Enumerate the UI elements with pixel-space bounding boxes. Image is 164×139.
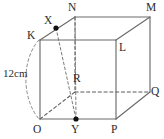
cube-geometry-figure: K L M N O P Q R X Y 12cm bbox=[0, 0, 164, 139]
edge-p-q bbox=[116, 92, 150, 119]
vertex-label-r: R bbox=[73, 73, 81, 85]
point-label-x: X bbox=[44, 15, 52, 27]
vertex-label-k: K bbox=[27, 30, 35, 42]
dimension-label-12cm: 12cm bbox=[3, 68, 27, 79]
point-label-y: Y bbox=[71, 124, 79, 136]
vertex-label-p: P bbox=[111, 124, 117, 136]
edge-o-r-hidden bbox=[40, 92, 75, 119]
vertex-label-q: Q bbox=[151, 86, 159, 98]
edge-l-m bbox=[116, 17, 150, 40]
line-n-y bbox=[75, 17, 76, 119]
point-y-dot bbox=[73, 116, 78, 121]
dimension-arc-ko bbox=[26, 40, 39, 119]
vertex-label-o: O bbox=[33, 124, 41, 136]
vertex-label-l: L bbox=[119, 42, 126, 54]
vertex-label-n: N bbox=[68, 2, 76, 14]
point-x-dot bbox=[53, 25, 58, 30]
vertex-label-m: M bbox=[146, 2, 156, 14]
